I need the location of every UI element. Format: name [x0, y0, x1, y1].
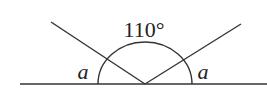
top-angle-label: 110° [124, 17, 165, 42]
diagram-svg: 110° a a [0, 0, 267, 109]
angle-diagram: 110° a a [0, 0, 267, 109]
right-angle-label: a [198, 59, 209, 84]
left-angle-label: a [78, 59, 89, 84]
